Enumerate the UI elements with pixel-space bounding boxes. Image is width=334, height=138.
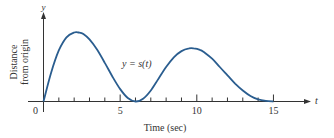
chart: y t 051015 y = s(t) Distance from origin… — [0, 0, 334, 138]
x-tick-label: 5 — [118, 105, 123, 116]
x-tick-label: 0 — [33, 105, 38, 116]
curve-s-of-t — [44, 32, 274, 101]
x-tick-label: 15 — [268, 105, 278, 116]
x-ticks — [59, 95, 274, 102]
x-axis-arrow-icon — [304, 99, 311, 104]
x-tick-label: 10 — [192, 105, 202, 116]
curve-label: y = s(t) — [121, 58, 152, 70]
y-axis-arrow-icon — [41, 12, 46, 19]
x-tick-labels: 051015 — [33, 105, 278, 116]
y-axis-label-line2: from origin — [19, 39, 30, 85]
y-axis-label-line1: Distance — [8, 44, 19, 80]
y-axis-var-label: y — [41, 2, 46, 12]
x-axis-var-label: t — [315, 95, 318, 106]
x-axis-label: Time (sec) — [144, 122, 187, 134]
